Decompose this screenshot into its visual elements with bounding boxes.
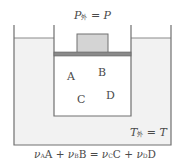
external-pressure-label: P外 = P [74, 9, 111, 22]
species-c: C [77, 93, 85, 106]
reaction-chamber [54, 56, 131, 116]
species-d: D [106, 89, 115, 102]
piston [54, 52, 131, 56]
reaction-equation: νAA + νBB = νCC + νDD [34, 148, 156, 160]
weight-block [77, 34, 108, 53]
species-b: B [98, 66, 106, 79]
species-a: A [67, 70, 75, 83]
external-temperature-label: T外 = T [130, 126, 167, 139]
